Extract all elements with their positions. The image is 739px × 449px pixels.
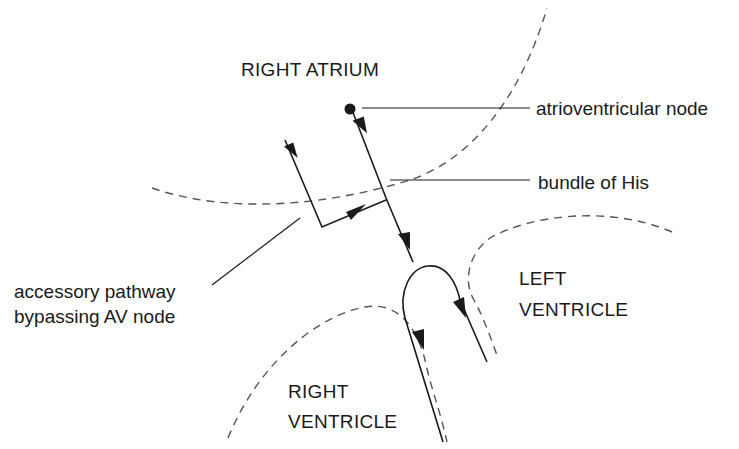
label-right-ventricle-1: RIGHT	[288, 381, 349, 403]
his-lower	[386, 198, 413, 262]
arrow-icon	[453, 297, 466, 318]
label-accessory-line1: accessory pathway	[14, 281, 176, 303]
accessory-leader	[212, 218, 300, 285]
accessory-pathway	[285, 140, 386, 227]
label-right-atrium: RIGHT ATRIUM	[241, 59, 379, 81]
label-right-ventricle-2: VENTRICLE	[288, 411, 397, 433]
label-left-ventricle-2: VENTRICLE	[519, 299, 628, 321]
av-node-dot	[345, 104, 356, 115]
bundle-branches	[403, 266, 487, 442]
arrow-icon	[284, 143, 299, 162]
label-av-node: atrioventricular node	[536, 98, 708, 120]
arrowheads	[284, 116, 466, 350]
label-accessory-line2: bypassing AV node	[14, 306, 175, 328]
left-ventricle-boundary	[468, 216, 672, 358]
label-left-ventricle-1: LEFT	[519, 268, 567, 290]
arrow-icon	[346, 204, 366, 220]
label-bundle-of-his: bundle of His	[538, 172, 649, 194]
arrow-icon	[398, 232, 410, 250]
